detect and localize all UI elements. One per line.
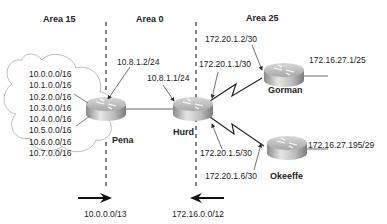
- pointer-arrow-hurd-s2: [212, 124, 222, 149]
- interface-gorman-lan: 172.16.27.1/25: [309, 56, 366, 65]
- interface-hurd-s-gorman: 172.20.1.1/30: [199, 60, 251, 69]
- cloud-network: 10.5.0.0/16: [29, 125, 72, 136]
- cloud-network: 10.6.0.0/16: [29, 137, 72, 148]
- interface-hurd-eth: 10.8.1.1/24: [147, 74, 190, 83]
- router-icon-gorman: [264, 63, 304, 87]
- router-name-gorman: Gorman: [268, 86, 303, 95]
- interface-okeeffe-lan: 172.16.27.195/29: [308, 141, 374, 150]
- cloud-network: 10.7.0.0/16: [29, 148, 72, 159]
- router-icon-hurd: [173, 97, 213, 121]
- pointer-arrow-hurd-s1: [212, 72, 218, 98]
- router-icon-okeeffe: [267, 136, 307, 160]
- router-name-okeeffe: Okeeffe: [270, 172, 303, 181]
- summary-route-area25: 172.16.0.0/12: [172, 210, 224, 219]
- interface-hurd-s-okeeffe: 172.20.1.5/30: [200, 149, 252, 158]
- summary-route-area15: 10.0.0.0/13: [84, 210, 127, 219]
- pointer-arrow-pena-eth: [108, 67, 130, 99]
- area-label-0: Area 0: [136, 15, 164, 24]
- area-label-15: Area 15: [43, 15, 76, 24]
- ospf-area-diagram: Area 15 Area 0 Area 25 10.0.0.0/16 10.1.…: [0, 0, 387, 224]
- cloud-network: 10.2.0.0/16: [29, 92, 72, 103]
- cloud-network: 10.0.0.0/16: [29, 69, 72, 80]
- interface-gorman-s: 172.20.1.2/30: [205, 35, 257, 44]
- pointer-arrow-hurd-eth: [163, 85, 174, 101]
- cloud-network: 10.4.0.0/16: [29, 114, 72, 125]
- router-icon-pena: [86, 97, 126, 121]
- cloud-network-list: 10.0.0.0/16 10.1.0.0/16 10.2.0.0/16 10.3…: [29, 69, 72, 159]
- router-name-hurd: Hurd: [173, 128, 194, 137]
- pointer-arrow-okeeffe-s: [254, 144, 261, 170]
- area-label-25: Area 25: [246, 14, 279, 23]
- pointer-arrow-gorman-s: [252, 45, 262, 70]
- interface-pena-eth: 10.8.1.2/24: [117, 58, 160, 67]
- serial-link-hurd-okeeffe: [210, 117, 264, 146]
- interface-okeeffe-s: 172.20.1.6/30: [205, 172, 257, 181]
- router-name-pena: Pena: [112, 136, 134, 145]
- cloud-network: 10.3.0.0/16: [29, 103, 72, 114]
- cloud-network: 10.1.0.0/16: [29, 80, 72, 91]
- serial-link-hurd-gorman: [210, 78, 262, 101]
